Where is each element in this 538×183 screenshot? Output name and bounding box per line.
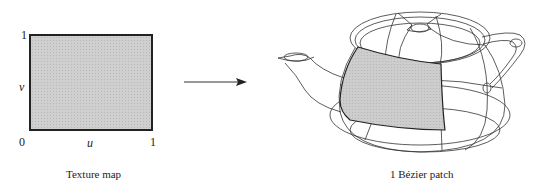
diagram-graphics (0, 0, 538, 183)
bezier-patch-region (340, 47, 445, 130)
mapping-arrow-icon (184, 78, 247, 86)
teapot-caption: 1 Bézier patch (390, 168, 454, 180)
